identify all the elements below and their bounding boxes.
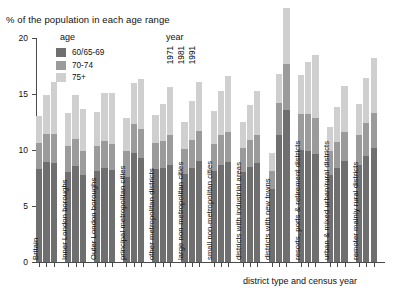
bar-segment-75- [356,104,362,135]
bar-segment-75- [65,113,71,145]
bar-segment-75- [305,62,311,115]
x-tick-mark [374,263,375,267]
bar-segment-60-65-69 [109,170,115,262]
bar [43,95,49,262]
bar-segment-75- [298,75,304,114]
bar-segment-60-65-69 [218,165,224,262]
bar-segment-75- [363,78,369,123]
bar-segment-60-65-69 [167,165,173,262]
bar-segment-70-74 [247,140,253,167]
x-tick-mark [126,263,127,267]
bar-segment-60-65-69 [80,175,86,262]
category-label: large non-metropolitan cities [176,162,185,260]
bar-segment-70-74 [43,134,49,162]
x-tick-mark [366,263,367,267]
y-tick-label: 5 [4,201,28,211]
bar-segment-60-65-69 [225,162,231,262]
bar-segment-75- [189,101,195,140]
x-tick-mark [228,263,229,267]
category-label: other metropolitan districts [147,168,156,260]
x-tick-mark [141,263,142,267]
bar-segment-60-65-69 [341,161,347,262]
bar-segment-75- [240,122,246,148]
x-tick-mark [105,263,106,267]
bar-segment-60-65-69 [283,110,289,262]
category-label: principal metropolitan cities [118,166,127,261]
x-axis-title: district type and census year [243,276,357,286]
bar-segment-70-74 [80,151,86,175]
x-tick-mark [257,263,258,267]
bar-segment-75- [152,115,158,143]
category-label: districts with industrial areas [234,162,243,260]
x-tick-mark [134,263,135,267]
bar-segment-60-65-69 [312,154,318,262]
bar [218,91,224,262]
bar-segment-75- [312,55,318,118]
y-tick-mark [32,262,36,263]
bar [283,8,289,262]
bar-segment-75- [80,109,86,152]
bar-segment-60-65-69 [363,156,369,262]
x-tick-mark [39,263,40,267]
x-tick-mark [221,263,222,267]
bar-segment-70-74 [167,135,173,164]
bar-segment-70-74 [94,146,100,172]
bar-segment-75- [94,112,100,146]
x-tick-mark [112,263,113,267]
bar-segment-75- [211,111,217,145]
category-label: districts with new towns [263,178,272,260]
bar-segment-60-65-69 [51,163,57,262]
bar-segment-70-74 [160,141,166,168]
category-label: urban & mixed urban/rural districts [322,141,331,260]
legend-swatch [56,48,66,57]
x-tick-mark [279,263,280,267]
bar [334,107,340,262]
bar-segment-70-74 [138,129,144,158]
bar-segment-60-65-69 [305,151,311,262]
bar-segment-75- [276,74,282,103]
x-tick-mark [272,263,273,267]
bar-segment-75- [138,79,144,128]
x-tick-mark [83,263,84,267]
y-tick-label: 0 [4,257,28,267]
y-tick-label: 15 [4,89,28,99]
bar-segment-70-74 [131,124,137,153]
bar-segment-75- [334,107,340,142]
category-label: small non-metropolitan cities [205,161,214,260]
x-tick-mark [359,263,360,267]
year-legend-label: 1991 [188,46,197,64]
x-tick-mark [199,263,200,267]
bar-segment-70-74 [276,103,282,135]
bar-segment-75- [51,82,57,135]
bar-segment-70-74 [363,123,369,155]
bar-segment-75- [131,83,137,124]
bar-segment-75- [269,153,275,171]
bar [225,76,231,262]
bar-segment-70-74 [218,135,224,164]
bar [51,82,57,262]
legend-age-title: age [60,32,75,42]
legend-item: 75+ [56,73,86,82]
bar [196,82,202,262]
bar-segment-70-74 [225,132,231,162]
bar [247,105,253,262]
bar-segment-70-74 [51,134,57,163]
bar-segment-75- [218,91,224,136]
bar-segment-60-65-69 [254,163,260,262]
bar [363,78,369,262]
bar-segment-60-65-69 [138,158,144,262]
category-label: Inner London boroughs [60,179,69,260]
legend-label: 70-74 [72,61,93,70]
bar [341,86,347,262]
y-tick-label: 10 [4,145,28,155]
bar-segment-75- [196,82,202,131]
bar-segment-75- [43,95,49,134]
legend-swatch [56,61,66,70]
bar-segment-75- [371,58,377,113]
x-tick-mark [185,263,186,267]
category-label: Britain [31,238,40,260]
legend-swatch [56,73,66,82]
bar [80,109,86,262]
bar-segment-70-74 [334,142,340,168]
bar-segment-60-65-69 [334,168,340,262]
